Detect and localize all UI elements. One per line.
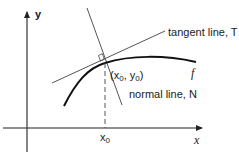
normal-label: normal line, N [129,88,197,100]
tangent-normal-diagram: y x (x0, y0) tangent line, T normal line… [0,0,239,157]
x-axis-label: x [193,133,200,147]
y-axis-label: y [35,8,42,20]
curve-f-label: f [191,66,196,80]
point-label: (x0, y0) [110,69,143,83]
x0-label: x0 [100,131,111,145]
normal-line [87,8,122,105]
tangent-label: tangent line, T [168,26,238,38]
